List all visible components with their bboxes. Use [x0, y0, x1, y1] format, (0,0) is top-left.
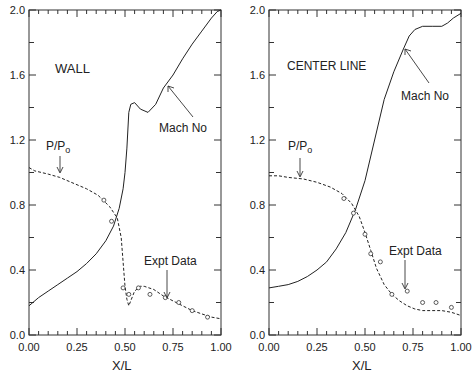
left-x-tick-label: 0.25 [66, 341, 87, 353]
right-y-tick-label: 1.2 [250, 134, 265, 146]
left-expt-data-point [190, 309, 194, 313]
left-pressure-text: P/P [46, 139, 65, 153]
left-expt-data-point [127, 292, 131, 296]
right-x-tick-label: 0.75 [402, 341, 423, 353]
left-y-tick-label: 2.0 [10, 4, 25, 16]
left-expt-data-point [206, 315, 210, 319]
right-x-axis-label: X/L [352, 358, 372, 373]
left-expt-data-point [110, 219, 114, 223]
right-mach-arrow [405, 49, 429, 83]
right-pressure-subscript: o [307, 145, 312, 155]
left-expt-arrow [164, 270, 170, 298]
right-y-tick-label: 0.8 [250, 199, 265, 211]
left-expt-label: Expt Data [144, 254, 197, 268]
right-pressure-text: P/P [288, 139, 307, 153]
right-x-tick-label: 1.00 [450, 341, 471, 353]
left-y-tick-label: 0.0 [10, 329, 25, 341]
left-x-tick-label: 1.00 [210, 341, 231, 353]
right-expt-data-point [369, 252, 373, 256]
right-expt-data-point [434, 301, 438, 305]
left-y-tick-label: 0.8 [10, 199, 25, 211]
right-expt-data-point [342, 197, 346, 201]
center-line-title: CENTER LINE [287, 59, 366, 73]
left-mach-label: Mach No [159, 121, 207, 135]
panel-center-line: 0.000.250.500.751.000.00.40.81.21.62.0 [250, 4, 472, 353]
panel-wall: 0.000.250.500.751.000.00.40.81.21.62.0 [10, 4, 232, 353]
left-y-tick-label: 0.4 [10, 264, 25, 276]
right-y-tick-label: 0.4 [250, 264, 265, 276]
right-x-tick-label: 0.25 [306, 341, 327, 353]
right-pressure-label: P/Po [288, 139, 312, 155]
left-pressure-label: P/Po [46, 139, 70, 155]
right-expt-data-point [449, 305, 453, 309]
right-expt-data-point [378, 260, 382, 264]
right-y-tick-label: 2.0 [250, 4, 265, 16]
left-expt-data-point [148, 292, 152, 296]
right-pressure-arrow [297, 158, 303, 177]
right-expt-data-point [363, 232, 367, 236]
left-pressure-arrow [57, 156, 63, 173]
left-expt-data-point [136, 286, 140, 290]
left-expt-data-point [177, 301, 181, 305]
right-expt-data-point [390, 292, 394, 296]
left-expt-data-point [121, 286, 125, 290]
right-x-tick-label: 0.00 [258, 341, 279, 353]
left-x-tick-label: 0.75 [162, 341, 183, 353]
left-pressure-subscript: o [65, 145, 70, 155]
right-mach-label: Mach No [401, 89, 449, 103]
left-pressure-ratio-line [29, 168, 221, 319]
right-expt-data-point [405, 289, 409, 293]
wall-title: WALL [55, 61, 90, 76]
left-expt-data-point [102, 198, 106, 202]
left-x-tick-label: 0.00 [18, 341, 39, 353]
left-y-tick-label: 1.2 [10, 134, 25, 146]
right-x-tick-label: 0.50 [354, 341, 375, 353]
left-y-tick-label: 1.6 [10, 69, 25, 81]
left-x-tick-label: 0.50 [114, 341, 135, 353]
right-expt-data-point [421, 301, 425, 305]
chart-figure: 0.000.250.500.751.000.00.40.81.21.62.0 0… [0, 0, 475, 376]
left-x-axis-label: X/L [112, 358, 132, 373]
right-expt-data-point [351, 211, 355, 215]
left-mach-arrow [168, 86, 193, 117]
right-y-tick-label: 0.0 [250, 329, 265, 341]
right-expt-label: Expt Data [389, 244, 442, 258]
right-expt-arrow [402, 260, 408, 289]
right-y-tick-label: 1.6 [250, 69, 265, 81]
